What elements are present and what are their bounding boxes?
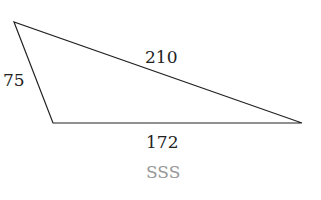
- triangle: [14, 22, 302, 123]
- side-label-left: 75: [3, 72, 25, 89]
- side-label-bottom: 172: [146, 134, 178, 151]
- side-label-top: 210: [145, 49, 177, 66]
- caption: SSS: [146, 164, 180, 181]
